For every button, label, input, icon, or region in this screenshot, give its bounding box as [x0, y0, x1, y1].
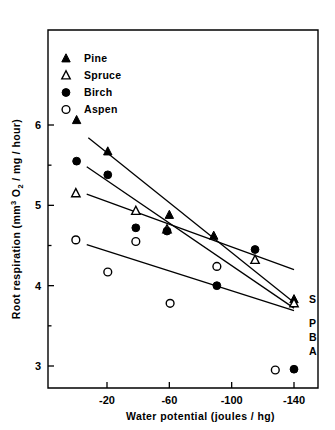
y-axis-title: Root respiration (mm3 O2 / mg / hour): [9, 119, 25, 320]
fit-line-spruce: [87, 194, 294, 270]
legend-label-pine: Pine: [84, 52, 107, 64]
x-axis-tick-label: -100: [221, 394, 243, 406]
data-point-aspen: [132, 238, 140, 246]
end-label-birch: B: [309, 331, 317, 343]
data-point-pine: [165, 210, 173, 218]
x-axis-tick-label: -140: [283, 394, 305, 406]
data-point-birch: [290, 365, 298, 373]
legend-marker-birch: [62, 89, 70, 97]
root-respiration-scatter-chart: 6543-20-60-100-140Water potential (joule…: [0, 0, 335, 430]
y-axis-tick-label: 4: [35, 280, 42, 292]
y-axis-tick-label: 5: [35, 199, 41, 211]
data-point-spruce: [72, 189, 80, 197]
x-axis-tick-label: -20: [99, 394, 115, 406]
legend-marker-spruce: [62, 71, 70, 79]
legend-label-spruce: Spruce: [84, 69, 121, 81]
x-axis-title: Water potential (joules / hg): [126, 410, 275, 422]
data-point-birch: [73, 157, 81, 165]
legend-label-birch: Birch: [84, 86, 112, 98]
data-point-pine: [72, 115, 80, 123]
plot-frame: [48, 30, 318, 388]
data-point-aspen: [166, 299, 174, 307]
data-point-birch: [132, 224, 140, 232]
end-label-aspen: A: [309, 345, 317, 357]
data-point-aspen: [271, 366, 279, 374]
data-point-birch: [251, 246, 259, 254]
data-point-aspen: [72, 236, 80, 244]
end-label-spruce: S: [309, 293, 316, 305]
end-label-pine: P: [309, 317, 316, 329]
x-axis-tick-label: -60: [161, 394, 177, 406]
legend-marker-aspen: [62, 106, 70, 114]
figure-root: 6543-20-60-100-140Water potential (joule…: [0, 0, 335, 430]
data-point-aspen: [104, 268, 112, 276]
data-point-birch: [163, 227, 171, 235]
data-point-birch: [104, 171, 112, 179]
data-point-aspen: [213, 262, 221, 270]
data-point-birch: [213, 282, 221, 290]
y-axis-tick-label: 3: [35, 360, 41, 372]
fit-line-birch: [87, 167, 294, 308]
legend-label-aspen: Aspen: [84, 103, 118, 115]
y-axis-tick-label: 6: [35, 119, 41, 131]
legend-marker-pine: [62, 54, 70, 62]
